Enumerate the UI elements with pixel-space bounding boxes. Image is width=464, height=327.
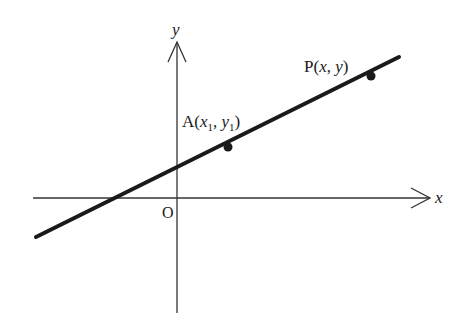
x-axis-label: x: [434, 188, 443, 207]
origin-label: O: [162, 204, 174, 221]
point-p-label: P(x, y): [304, 57, 348, 76]
y-axis: [168, 42, 186, 313]
point-a: [224, 143, 233, 152]
x-axis: [33, 188, 430, 208]
point-a-label: A(x1, y1): [182, 112, 240, 133]
line-through-a-and-p: [36, 57, 399, 237]
y-axis-label: y: [170, 20, 180, 39]
point-p: [367, 72, 376, 81]
coordinate-diagram: y x O A(x1, y1) P(x, y): [0, 0, 464, 327]
